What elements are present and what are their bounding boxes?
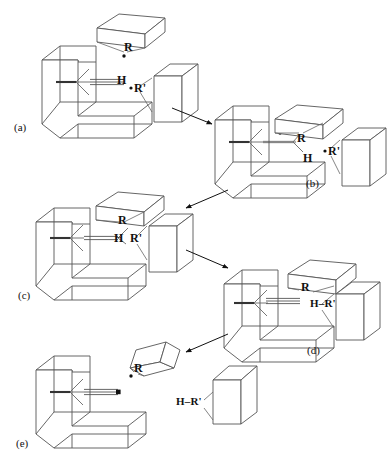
label-d-hrprime: H–R' [310,298,336,309]
label-c-rprime: R' [130,232,142,244]
label-d-r: R [301,281,310,293]
label-a-h: H [117,74,126,86]
label-a-rprime: R' [134,82,146,94]
radical-dot-alkynyl [116,390,121,395]
label-b-rprime: R' [328,145,340,157]
panel-label-a: (a) [14,122,26,133]
hr-prime-block [213,366,257,424]
panel-label-e: (e) [16,438,28,449]
panel-d [224,260,380,362]
r-prime-block [154,64,198,122]
hr-prime-block [336,282,380,340]
label-e-r: R [134,362,143,374]
host-cavity-block [36,356,146,448]
arrow-b-to-c [186,190,228,208]
label-b-r: R [297,132,306,144]
label-c-h: H [114,232,123,244]
r-prime-block [149,214,193,272]
radical-dot-rprime [129,86,132,89]
panel-b [215,105,386,198]
panel-e [36,342,257,448]
panel-label-c: (c) [18,290,30,301]
label-b-h: H [303,152,312,164]
panel-c [36,192,193,300]
r-prime-block [342,128,386,186]
label-c-r: R [118,214,127,226]
arrow-d-to-e [186,334,228,352]
panel-label-b: (b) [306,178,319,189]
hr-prime-tether [204,392,213,420]
radical-dot-rprime [323,149,326,152]
r-group-block [275,105,343,139]
panel-label-d: (d) [307,345,320,356]
label-e-hrprime: H–R' [176,396,202,407]
radical-dot-r [122,54,125,57]
reaction-mechanism-figure [0,0,388,462]
radical-dot-r [129,374,132,377]
label-a-r: R [124,41,133,53]
